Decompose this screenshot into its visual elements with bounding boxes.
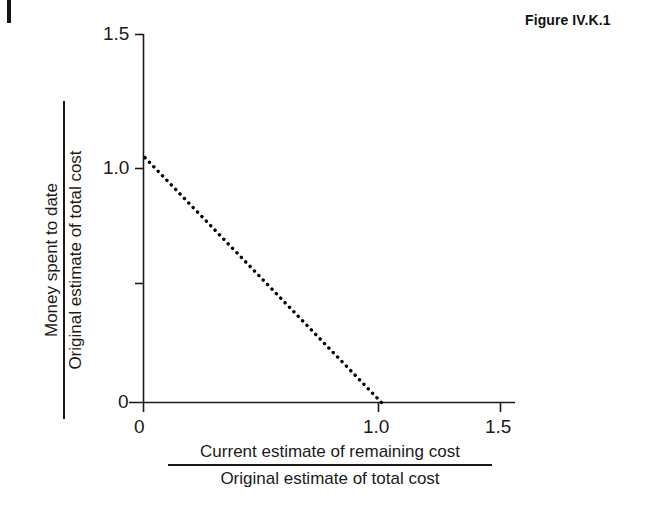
series-budget-constraint <box>145 158 382 403</box>
y-axis-label-denominator: Original estimate of total cost <box>65 146 86 373</box>
y-axis-label-numerator: Money spent to date <box>42 179 63 341</box>
x-axis-label-denominator: Original estimate of total cost <box>220 466 439 489</box>
x-axis-label: Current estimate of remaining cost Origi… <box>168 442 492 489</box>
y-tick-label-0: 0 <box>118 392 129 411</box>
figure-container: Figure IV.K.1 1.5 1.0 0 0 1.0 1.5 Money … <box>0 0 665 521</box>
x-tick-label-1_5: 1.5 <box>485 417 511 436</box>
y-tick-label-1_0: 1.0 <box>103 158 129 177</box>
y-axis-label: Money spent to date Original estimate of… <box>34 90 94 430</box>
x-axis-label-numerator: Current estimate of remaining cost <box>200 442 460 464</box>
x-tick-label-0: 0 <box>134 417 145 436</box>
y-tick-label-1_5: 1.5 <box>103 24 129 43</box>
x-tick-label-1_0: 1.0 <box>363 417 389 436</box>
